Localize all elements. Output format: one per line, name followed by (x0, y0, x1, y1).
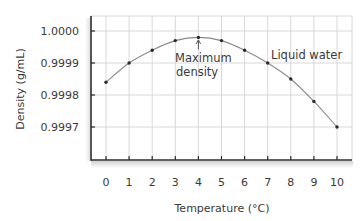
x-tick-label: 3 (172, 176, 179, 189)
data-point (197, 36, 200, 39)
x-tick-label: 10 (330, 176, 344, 189)
x-tick-label: 0 (103, 176, 110, 189)
data-point (104, 81, 107, 84)
x-axis-label: Temperature (°C) (174, 202, 270, 215)
data-point (220, 39, 223, 42)
x-axis-ticks: 012345678910 (103, 156, 345, 189)
max-density-label: Maximum (175, 51, 232, 65)
data-point (243, 49, 246, 52)
x-tick-label: 1 (126, 176, 133, 189)
data-point (289, 77, 292, 80)
data-point (266, 61, 269, 64)
x-tick-label: 7 (264, 176, 271, 189)
data-point (174, 39, 177, 42)
x-tick-label: 2 (149, 176, 156, 189)
y-tick-label: 1.0000 (41, 25, 80, 38)
y-tick-label: 0.9997 (41, 121, 80, 134)
x-tick-label: 4 (195, 176, 202, 189)
data-point (335, 125, 338, 128)
y-tick-label: 0.9998 (41, 89, 80, 102)
x-tick-label: 5 (218, 176, 225, 189)
data-point (312, 100, 315, 103)
liquid-water-label: Liquid water (271, 48, 342, 62)
x-tick-label: 6 (241, 176, 248, 189)
data-point (151, 49, 154, 52)
x-tick-label: 9 (310, 176, 317, 189)
grid-lines (91, 16, 352, 160)
max-density-label: density (176, 65, 218, 79)
density-chart: 1.00000.99990.99980.9997 012345678910 Ma… (0, 0, 364, 221)
data-point (127, 61, 130, 64)
y-tick-label: 0.9999 (41, 57, 80, 70)
x-tick-label: 8 (287, 176, 294, 189)
y-axis-label: Density (g/mL) (14, 48, 27, 129)
